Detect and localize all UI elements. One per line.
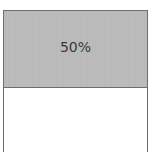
filled-segment: 50%: [4, 11, 147, 88]
cropped-title-fragment: [40, 0, 120, 4]
percentage-label: 50%: [4, 39, 147, 55]
percentage-bar-chart: 50%: [3, 10, 148, 152]
